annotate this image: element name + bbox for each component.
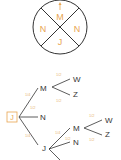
prob-mw: 1/2 [56,72,62,77]
root-label: J [10,114,14,121]
probability-tree: J 1/4 1/2 1/4 M N J 1/2 1/2 W Z 1/4 1/2 … [7,72,113,160]
spinner-arrow-icon [59,2,62,10]
node-jmw: W [105,116,113,125]
spinner-section-bottom: J [58,37,63,47]
node-mw: W [73,75,81,84]
node-n: N [40,113,46,122]
node-mz: Z [73,90,78,99]
node-j: J [42,144,46,153]
node-m: M [40,84,47,93]
node-jn: N [73,138,79,147]
prob-jm: 1/4 [55,130,61,135]
node-jmz: Z [105,130,110,139]
spinner-section-left: N [40,24,47,34]
prob-jn: 1/2 [65,136,71,141]
prob-m: 1/4 [25,92,31,97]
prob-jmz: 1/2 [89,137,95,142]
spinner-section-top: M [56,12,64,22]
prob-j: 1/4 [25,133,31,138]
prob-mz: 1/2 [56,98,62,103]
spinner-section-right: N [74,24,81,34]
diagram-canvas: M N N J J 1/4 1/2 1/4 M N J 1/2 1/2 W Z … [0,0,121,160]
prob-jmw: 1/2 [89,113,95,118]
spinner: M N N J [33,0,87,54]
node-jm: M [73,124,80,133]
prob-n: 1/2 [30,105,36,110]
